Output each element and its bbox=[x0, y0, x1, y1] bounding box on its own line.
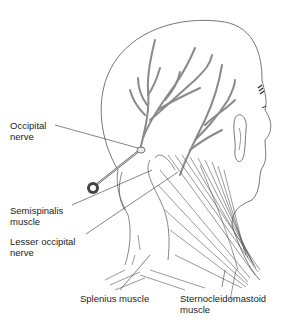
label-sternocleidomastoid-muscle: Sternocleidomastoid muscle bbox=[180, 293, 266, 315]
lesser-occipital-nerve-branches bbox=[180, 65, 235, 175]
needle bbox=[87, 147, 145, 194]
head-outline bbox=[101, 20, 271, 280]
anatomy-illustration bbox=[0, 0, 283, 320]
anatomy-figure: Occipital nerve Semispinalis muscle Less… bbox=[0, 0, 283, 320]
label-semispinalis-muscle: Semispinalis muscle bbox=[10, 205, 63, 227]
semispinalis-muscle bbox=[117, 155, 175, 265]
muscle-striations bbox=[105, 155, 260, 300]
label-occipital-nerve: Occipital nerve bbox=[10, 120, 46, 142]
label-splenius-muscle: Splenius muscle bbox=[80, 293, 149, 304]
occipital-nerve-branches bbox=[130, 40, 212, 150]
ear bbox=[234, 115, 246, 162]
label-lesser-occipital-nerve: Lesser occipital nerve bbox=[10, 236, 75, 258]
